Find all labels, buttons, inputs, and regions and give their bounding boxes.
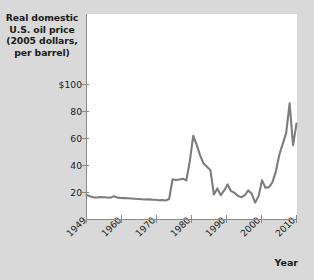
y-axis-ticks <box>82 85 89 193</box>
chart-canvas <box>0 0 314 280</box>
oil-price-line <box>87 103 297 202</box>
oil-price-chart: Real domestic U.S. oil price (2005 dolla… <box>0 0 314 280</box>
